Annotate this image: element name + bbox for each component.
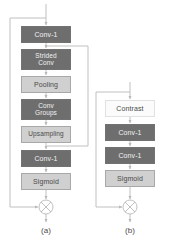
node-label: Conv-1 (34, 155, 57, 162)
node-sigmoid-a: Sigmoid (21, 173, 71, 190)
node-label: Conv-1 (118, 152, 141, 159)
node-conv1-second-b: Conv-1 (105, 147, 155, 164)
node-strided-conv: Strided Conv (21, 49, 71, 70)
node-conv1-top: Conv-1 (21, 26, 71, 43)
node-label: Pooling (34, 81, 58, 88)
node-upsampling: Upsampling (21, 126, 71, 143)
node-label: Sigmoid (33, 178, 59, 185)
node-sigmoid-b: Sigmoid (105, 170, 155, 187)
figure-container: Conv-1 Strided Conv Pooling Conv Groups … (0, 0, 176, 251)
node-conv1-first-b: Conv-1 (105, 124, 155, 141)
node-conv1-bottom: Conv-1 (21, 150, 71, 167)
node-label: Sigmoid (117, 175, 143, 182)
b-multiply-node (123, 200, 137, 214)
node-label: Upsampling (28, 131, 63, 138)
node-contrast: Contrast (105, 100, 155, 117)
node-label: Contrast (116, 105, 143, 112)
node-label: Strided Conv (35, 53, 56, 67)
node-pooling: Pooling (21, 76, 71, 93)
node-label: Conv-1 (118, 129, 141, 136)
node-label: Conv-1 (34, 31, 57, 38)
caption-a: (a) (26, 226, 66, 235)
a-multiply-node (39, 200, 53, 214)
node-conv-groups: Conv Groups (21, 99, 71, 120)
node-label: Conv Groups (35, 103, 57, 117)
caption-b: (b) (110, 226, 150, 235)
